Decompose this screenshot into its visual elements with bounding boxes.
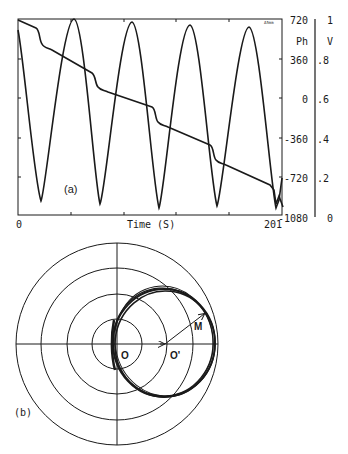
corner-note: Δ5mm [264, 20, 274, 25]
figure: (a) 0 Time (S) 201 Δ5mm 720 Ph 360 0 -36… [0, 0, 348, 454]
voltage-tick-0-6: .6 [317, 94, 329, 105]
phase-tick-neg720: -720 [284, 173, 308, 184]
origin-label: O [121, 350, 129, 361]
center-label: O' [170, 350, 180, 361]
vector-tip-label: M [194, 321, 202, 332]
voltage-unit-label: V [327, 36, 333, 47]
phase-tick-neg1080: -1080 [278, 213, 308, 224]
plot-frame [18, 19, 282, 215]
phase-tick-360: 360 [290, 55, 308, 66]
phase-tick-0: 0 [302, 94, 308, 105]
loop-4 [106, 278, 222, 403]
voltage-tick-1: 1 [327, 15, 333, 26]
loop-2 [109, 285, 216, 400]
phase-tick-720: 720 [290, 15, 308, 26]
panel-a-label: (a) [64, 183, 77, 195]
phase-tick-neg360: -360 [284, 134, 308, 145]
polar-grid [16, 243, 218, 445]
voltage-tick-0-2: .2 [317, 173, 329, 184]
panel-b: O O' M (b) [14, 243, 222, 445]
voltage-curve [18, 19, 282, 208]
x-axis-title: Time (S) [127, 219, 175, 230]
phase-unit-label: Ph [296, 36, 308, 47]
trajectory-loops [106, 278, 222, 403]
voltage-tick-0-8: .8 [317, 55, 329, 66]
panel-b-label: (b) [14, 407, 32, 418]
panel-a: (a) 0 Time (S) 201 Δ5mm 720 Ph 360 0 -36… [16, 15, 333, 230]
voltage-tick-0-4: .4 [317, 134, 329, 145]
voltage-tick-0: 0 [327, 213, 333, 224]
phase-curve [18, 20, 283, 207]
x-start-label: 0 [16, 219, 22, 230]
